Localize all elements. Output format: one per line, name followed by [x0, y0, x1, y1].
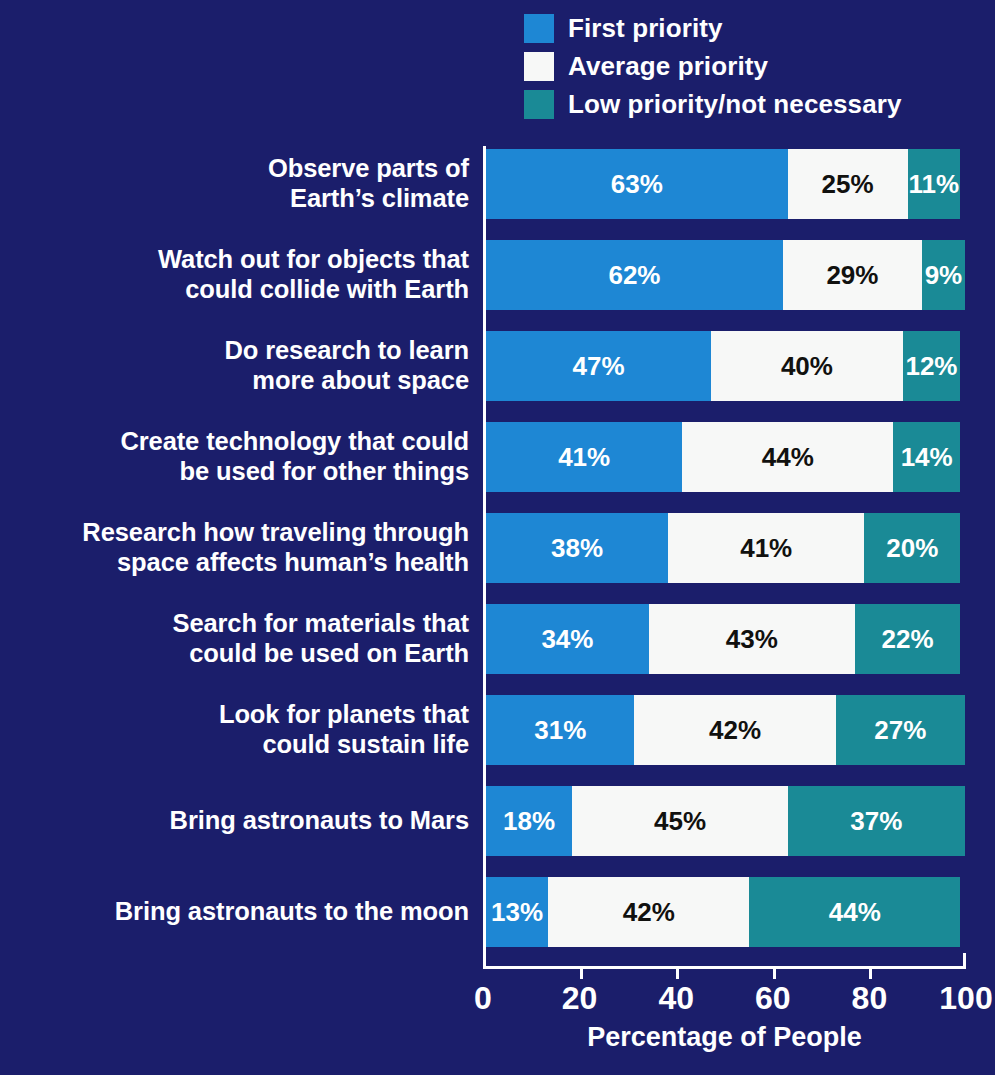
category-label: Bring astronauts to the moon	[0, 897, 469, 927]
bar-value-label: 45%	[654, 806, 706, 837]
bar-value-label: 9%	[925, 260, 963, 291]
bar-segment: 41%	[486, 422, 682, 492]
bar-value-label: 42%	[623, 897, 675, 928]
bar-value-label: 41%	[558, 442, 610, 473]
stacked-bar-chart: First priorityAverage priorityLow priori…	[0, 0, 995, 1075]
axis-tick-label: 20	[562, 982, 598, 1014]
legend-swatch-icon	[524, 14, 554, 43]
bar-segment: 62%	[486, 240, 783, 310]
bar-segment: 44%	[749, 877, 960, 947]
bar-segment: 45%	[572, 786, 788, 856]
bar-segment: 22%	[855, 604, 960, 674]
bar-segment: 42%	[634, 695, 835, 765]
legend-item-label: Average priority	[568, 53, 768, 79]
bar-value-label: 18%	[503, 806, 555, 837]
bar-value-label: 34%	[541, 624, 593, 655]
category-label: Bring astronauts to Mars	[0, 806, 469, 836]
bar-value-label: 20%	[886, 533, 938, 564]
bar-segment: 37%	[788, 786, 965, 856]
bar-segment: 42%	[548, 877, 749, 947]
bar-value-label: 62%	[608, 260, 660, 291]
chart-legend: First priorityAverage priorityLow priori…	[524, 12, 984, 120]
bar-value-label: 14%	[901, 442, 953, 473]
bar-segment: 11%	[908, 149, 961, 219]
bar-value-label: 31%	[534, 715, 586, 746]
bar-value-label: 38%	[551, 533, 603, 564]
legend-item[interactable]: Average priority	[524, 50, 984, 82]
chart-row: Search for materials that could be used …	[0, 604, 995, 674]
axis-tick-mark	[676, 966, 679, 979]
axis-tick-label: 100	[939, 982, 992, 1014]
bar-segment: 47%	[486, 331, 711, 401]
bar-segment: 20%	[864, 513, 960, 583]
bar-segment: 12%	[903, 331, 960, 401]
bar-value-label: 22%	[881, 624, 933, 655]
category-label: Observe parts of Earth’s climate	[0, 154, 469, 213]
bar-segment: 38%	[486, 513, 668, 583]
stacked-bar: 18%45%37%	[486, 786, 965, 856]
bar-value-label: 44%	[829, 897, 881, 928]
x-axis-line	[483, 966, 966, 969]
bar-value-label: 11%	[909, 169, 960, 200]
bar-value-label: 44%	[762, 442, 814, 473]
bar-value-label: 13%	[491, 897, 543, 928]
chart-row: Look for planets that could sustain life…	[0, 695, 995, 765]
stacked-bar: 31%42%27%	[486, 695, 965, 765]
bar-segment: 13%	[486, 877, 548, 947]
bar-segment: 34%	[486, 604, 649, 674]
category-label: Create technology that could be used for…	[0, 427, 469, 486]
stacked-bar: 47%40%12%	[486, 331, 965, 401]
bar-segment: 9%	[922, 240, 965, 310]
bar-value-label: 63%	[611, 169, 663, 200]
category-label: Do research to learn more about space	[0, 336, 469, 395]
bar-segment: 41%	[668, 513, 864, 583]
bar-segment: 27%	[836, 695, 965, 765]
stacked-bar: 62%29%9%	[486, 240, 965, 310]
axis-tick-mark	[963, 953, 966, 969]
legend-swatch-icon	[524, 52, 554, 81]
legend-item[interactable]: Low priority/not necessary	[524, 88, 984, 120]
stacked-bar: 41%44%14%	[486, 422, 965, 492]
bar-segment: 44%	[682, 422, 893, 492]
bar-segment: 31%	[486, 695, 634, 765]
bar-segment: 14%	[893, 422, 960, 492]
stacked-bar: 34%43%22%	[486, 604, 965, 674]
category-label: Search for materials that could be used …	[0, 609, 469, 668]
axis-tick-mark	[869, 966, 872, 979]
bar-segment: 25%	[788, 149, 908, 219]
legend-item-label: First priority	[568, 15, 723, 41]
category-label: Research how traveling through space aff…	[0, 518, 469, 577]
bar-value-label: 42%	[709, 715, 761, 746]
y-axis-line	[483, 146, 486, 968]
bar-segment: 18%	[486, 786, 572, 856]
axis-tick-label: 60	[755, 982, 791, 1014]
bar-value-label: 43%	[726, 624, 778, 655]
bar-value-label: 29%	[826, 260, 878, 291]
axis-tick-label: 0	[474, 982, 492, 1014]
x-axis-title: Percentage of People	[483, 1024, 966, 1051]
plot-area: Observe parts of Earth’s climate63%25%11…	[0, 146, 995, 968]
legend-swatch-icon	[524, 90, 554, 119]
chart-row: Do research to learn more about space47%…	[0, 331, 995, 401]
legend-item[interactable]: First priority	[524, 12, 984, 44]
chart-row: Watch out for objects that could collide…	[0, 240, 995, 310]
bar-value-label: 41%	[740, 533, 792, 564]
chart-row: Create technology that could be used for…	[0, 422, 995, 492]
axis-tick-mark	[773, 966, 776, 979]
stacked-bar: 63%25%11%	[486, 149, 965, 219]
bar-segment: 43%	[649, 604, 855, 674]
bar-segment: 63%	[486, 149, 788, 219]
bar-value-label: 27%	[874, 715, 926, 746]
axis-tick-mark	[483, 953, 486, 969]
chart-row: Observe parts of Earth’s climate63%25%11…	[0, 149, 995, 219]
bar-value-label: 25%	[822, 169, 874, 200]
bar-value-label: 40%	[781, 351, 833, 382]
axis-tick-label: 40	[658, 982, 694, 1014]
category-label: Look for planets that could sustain life	[0, 700, 469, 759]
axis-tick-mark	[580, 966, 583, 979]
bar-value-label: 37%	[850, 806, 902, 837]
bar-segment: 40%	[711, 331, 903, 401]
chart-row: Bring astronauts to the moon13%42%44%	[0, 877, 995, 947]
stacked-bar: 38%41%20%	[486, 513, 965, 583]
category-label: Watch out for objects that could collide…	[0, 245, 469, 304]
